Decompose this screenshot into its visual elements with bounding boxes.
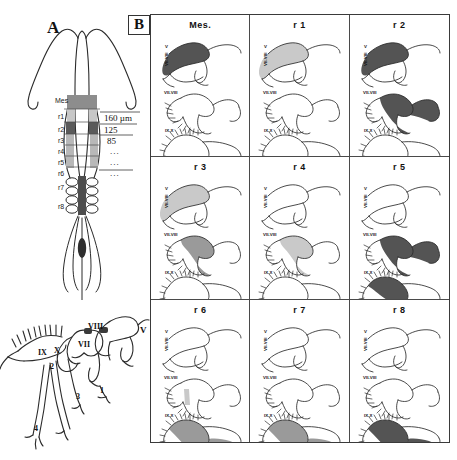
ganglion-sublabel-viii: VII-VIII — [164, 337, 169, 350]
ganglion-drawing: VVII-VIIIIX-XVII-VIII — [350, 174, 449, 299]
cell-title: r 7 — [250, 305, 348, 315]
cell-title: r 1 — [250, 20, 348, 30]
segment-label-r7: r7 — [58, 184, 64, 191]
ganglion-label-v: V — [165, 44, 168, 49]
ganglion-label-ix-x: IX-X — [165, 270, 174, 275]
branch-label-4: 4 — [34, 424, 38, 433]
ganglion-label-v: V — [364, 44, 367, 49]
branch-label-1: 1 — [100, 386, 104, 395]
ganglion-drawing: VVII-VIIIIX-XVII-VIII — [250, 174, 349, 299]
grid-cell-r1: r 1 VVII-VIIIIX-XVII-VIII — [250, 15, 349, 157]
measurement-125: 125 — [104, 125, 118, 135]
segment-label-r4: r4 — [58, 148, 64, 155]
grid-cell-r7: r 7 VVII-VIIIIX-XVII-VIII — [250, 300, 349, 442]
ganglion-sublabel-viii: VII-VIII — [363, 337, 368, 350]
measurement-ellipsis-3: ... — [110, 168, 120, 178]
grid-cell-r4: r 4 VVII-VIIIIX-XVII-VIII — [250, 157, 349, 299]
panel-b-letter: B — [128, 15, 150, 35]
ganglion-label-vii-viii: VII-VIII — [164, 90, 177, 95]
grid-cell-r8: r 8 VVII-VIIIIX-XVII-VIII — [350, 300, 449, 442]
ganglion-label-ix-x: IX-X — [264, 270, 273, 275]
ganglion-drawing: VVII-VIIIIX-XVII-VIII — [250, 32, 349, 157]
ganglion-label-v: V — [264, 329, 267, 334]
branch-label-2: 2 — [50, 362, 54, 371]
ganglion-label-ix-x: IX-X — [165, 413, 174, 418]
segment-label-mes: Mes — [55, 97, 68, 104]
ganglion-sublabel-viii: VII-VIII — [363, 53, 368, 66]
neural-tube-diagram — [0, 0, 150, 300]
grid-cell-mes: Mes. VVII-VIIIIX-XVII-VIII — [151, 15, 250, 157]
ganglion-sublabel-viii: VII-VIII — [263, 195, 268, 208]
ganglion-label-vii-viii: VII-VIII — [263, 90, 276, 95]
nerve-label-IX: IX — [38, 348, 47, 357]
grid-cell-r2: r 2 VVII-VIIIIX-XVII-VIII — [350, 15, 449, 157]
ganglion-label-vii-viii: VII-VIII — [363, 90, 376, 95]
ganglion-label-vii-viii: VII-VIII — [263, 232, 276, 237]
ganglion-label-v: V — [165, 186, 168, 191]
measurement-160um: 160 µm — [104, 113, 132, 123]
ganglion-drawing: VVII-VIIIIX-XVII-VIII — [151, 317, 250, 442]
grid-cell-r6: r 6 VVII-VIIIIX-XVII-VIII — [151, 300, 250, 442]
ganglion-label-vii-viii: VII-VIII — [164, 232, 177, 237]
nerve-label-VII: VII — [78, 340, 90, 349]
ganglion-label-ix-x: IX-X — [364, 270, 373, 275]
ganglion-label-ix-x: IX-X — [364, 413, 373, 418]
cell-title: r 2 — [350, 20, 449, 30]
ganglion-label-ix-x: IX-X — [364, 128, 373, 133]
segment-label-r8: r8 — [58, 203, 64, 210]
ganglion-label-ix-x: IX-X — [264, 413, 273, 418]
ganglion-label-ix-x: IX-X — [165, 128, 174, 133]
ganglion-sublabel-viii: VII-VIII — [164, 195, 169, 208]
ganglion-drawing: VVII-VIIIIX-XVII-VIII — [151, 32, 250, 157]
branch-label-3: 3 — [76, 392, 80, 401]
cell-title: r 5 — [350, 162, 449, 172]
ganglion-label-vii-viii: VII-VIII — [363, 375, 376, 380]
grid-cell-r5: r 5 VVII-VIIIIX-XVII-VIII — [350, 157, 449, 299]
segment-label-r6: r6 — [58, 170, 64, 177]
ganglion-label-v: V — [364, 329, 367, 334]
ganglion-label-vii-viii: VII-VIII — [263, 375, 276, 380]
ganglion-sublabel-viii: VII-VIII — [363, 195, 368, 208]
ganglion-label-vii-viii: VII-VIII — [363, 232, 376, 237]
cranial-nerve-schematic: V VIII VII IX X 1 2 3 4 — [0, 285, 150, 460]
grid-cell-r3: r 3 VVII-VIIIIX-XVII-VIII — [151, 157, 250, 299]
ganglion-label-v: V — [264, 186, 267, 191]
ganglion-label-vii-viii: VII-VIII — [164, 375, 177, 380]
measurement-ellipsis-2: ... — [110, 157, 120, 167]
panel-a: A — [0, 0, 150, 460]
ganglion-label-v: V — [264, 44, 267, 49]
segment-label-r5: r5 — [58, 159, 64, 166]
ganglion-sublabel-viii: VII-VIII — [164, 53, 169, 66]
ganglion-sublabel-viii: VII-VIII — [263, 53, 268, 66]
nerve-label-X: X — [54, 346, 60, 355]
cell-title: Mes. — [151, 20, 249, 30]
ganglion-drawing: VVII-VIIIIX-XVII-VIII — [151, 174, 250, 299]
ganglion-sublabel-viii: VII-VIII — [263, 337, 268, 350]
ganglion-label-v: V — [165, 329, 168, 334]
measurement-ellipsis-1: ... — [110, 146, 120, 156]
segment-label-r2: r2 — [58, 126, 64, 133]
ganglion-label-v: V — [364, 186, 367, 191]
cell-title: r 8 — [350, 305, 449, 315]
cell-title: r 6 — [151, 305, 249, 315]
measurement-85: 85 — [107, 136, 116, 146]
cell-title: r 3 — [151, 162, 249, 172]
panel-b-grid: Mes. VVII-VIIIIX-XVII-VIII r 1 VVII-VIII… — [150, 14, 450, 443]
segment-label-r1: r1 — [58, 113, 64, 120]
nerve-label-VIII: VIII — [88, 322, 103, 331]
nerve-label-V: V — [140, 325, 147, 335]
ganglion-drawing: VVII-VIIIIX-XVII-VIII — [350, 32, 449, 157]
ganglion-drawing: VVII-VIIIIX-XVII-VIII — [250, 317, 349, 442]
segment-label-r3: r3 — [58, 137, 64, 144]
ganglion-drawing: VVII-VIIIIX-XVII-VIII — [350, 317, 449, 442]
ganglion-label-ix-x: IX-X — [264, 128, 273, 133]
cell-title: r 4 — [250, 162, 348, 172]
